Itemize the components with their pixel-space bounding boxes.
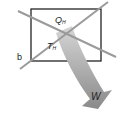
temperature-line — [20, 2, 108, 69]
work-label: W — [91, 92, 100, 102]
thermodynamic-diagram: QH TH b W — [0, 0, 129, 116]
boundary-label: b — [17, 53, 22, 62]
heat-label: QH — [55, 16, 66, 25]
work-arrow — [56, 26, 112, 109]
temperature-label: TH — [47, 42, 56, 51]
